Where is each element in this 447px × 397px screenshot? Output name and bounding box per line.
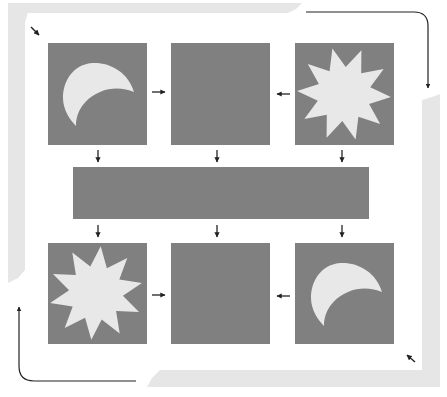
- arrow-up-left-icon: [407, 355, 415, 362]
- frame-left: [8, 3, 25, 283]
- diagram-canvas: [0, 0, 447, 397]
- frame-bottom: [147, 355, 440, 387]
- frame-right: [422, 94, 440, 385]
- tile-top-middle: [171, 43, 270, 145]
- tile-bottom-middle: [171, 243, 270, 344]
- tile-top-left: [48, 43, 147, 145]
- frame-top: [8, 3, 302, 22]
- middle-bar: [73, 167, 369, 219]
- arrow-down-right-icon: [31, 27, 39, 35]
